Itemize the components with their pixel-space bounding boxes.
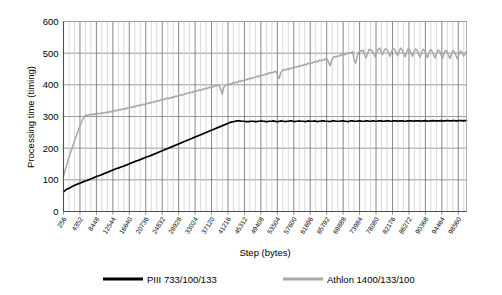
chart-container: Processing time (timing) 010020030040050… [0,0,502,295]
y-tick-label: 300 [43,111,59,122]
y-tick-label: 100 [43,174,59,185]
legend-label-piii: PIII 733/100/133 [147,274,217,285]
processing-time-line-chart: Processing time (timing) 010020030040050… [0,0,502,295]
y-tick-label: 500 [43,48,59,59]
y-tick-label: 200 [43,143,59,154]
legend-label-athlon: Athlon 1400/133/100 [327,274,415,285]
y-tick-label: 400 [43,79,59,90]
y-tick-label: 600 [43,16,59,27]
y-tick-label: 0 [53,206,58,217]
x-axis-title: Step (bytes) [239,247,290,258]
y-axis-title: Processing time (timing) [25,66,36,168]
